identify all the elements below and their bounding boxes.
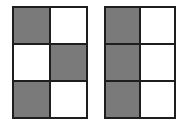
right-grid-cell-r3c1 (106, 82, 139, 117)
left-grid-cell-r1c1 (14, 8, 49, 43)
left-grid (12, 6, 88, 119)
left-grid-cell-r2c1 (14, 45, 49, 80)
left-grid-cell-r3c2 (51, 82, 86, 117)
right-grid-cell-r3c2 (141, 82, 174, 117)
left-grid-cell-r3c1 (14, 82, 49, 117)
left-grid-cell-r1c2 (51, 8, 86, 43)
left-grid-cell-r2c2 (51, 45, 86, 80)
right-grid-cell-r1c1 (106, 8, 139, 43)
right-grid (104, 6, 176, 119)
right-grid-cell-r1c2 (141, 8, 174, 43)
right-grid-cell-r2c2 (141, 45, 174, 80)
right-grid-cell-r2c1 (106, 45, 139, 80)
